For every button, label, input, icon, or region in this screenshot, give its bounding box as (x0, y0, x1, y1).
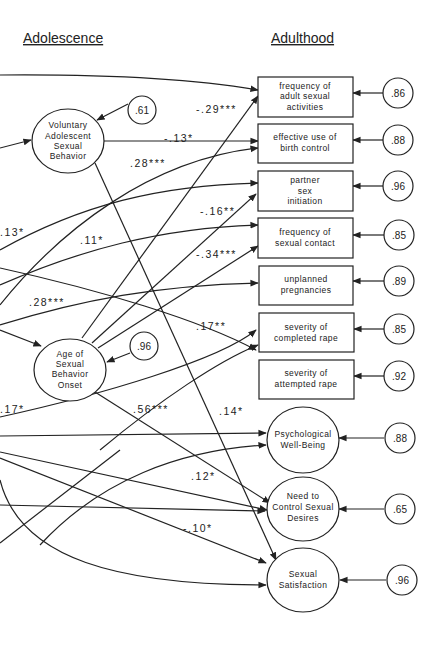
svg-text:Voluntary: Voluntary (48, 120, 87, 130)
svg-text:partner: partner (290, 175, 320, 185)
svg-text:sexual contact: sexual contact (275, 238, 335, 248)
svg-text:Desires: Desires (287, 513, 319, 523)
path-diagram: Adolescence Adulthood (0, 0, 437, 661)
edge-external-attempted-rape (0, 268, 256, 350)
error-control-desires: .65 (385, 494, 415, 524)
svg-text:Sexual: Sexual (54, 141, 82, 151)
outcome-birth-control: effective use of birth control (258, 124, 353, 163)
coef-age-control-desires: .56*** (133, 403, 169, 415)
coef-age-freq-contact: -.34*** (196, 248, 237, 260)
outcome-freq-adult: frequency of adult sexual activities (258, 77, 353, 117)
svg-text:.88: .88 (391, 135, 405, 146)
outcome-satisfaction: Sexual Satisfaction (267, 548, 339, 612)
svg-text:.86: .86 (391, 88, 405, 99)
svg-text:effective use of: effective use of (273, 132, 337, 142)
edge-external-control-1 (0, 452, 267, 510)
svg-text:pregnancies: pregnancies (281, 285, 332, 295)
edge-external-age-onset (0, 330, 41, 346)
edge-vasb-satisfaction (95, 163, 276, 560)
heading-adolescence: Adolescence (23, 30, 103, 46)
svg-text:Sexual: Sexual (289, 569, 317, 579)
svg-text:.92: .92 (392, 371, 406, 382)
svg-text:.85: .85 (392, 230, 406, 241)
node-age-onset: Age of Sexual Behavior Onset (34, 339, 106, 401)
edge-error-age-onset (107, 353, 130, 362)
outcome-unplanned: unplanned pregnancies (259, 266, 353, 305)
svg-text:Well-Being: Well-Being (281, 440, 326, 450)
coef-external-satisfaction: -.10* (183, 522, 213, 534)
svg-text:unplanned: unplanned (284, 274, 327, 284)
error-psych-wellbeing: .88 (385, 423, 415, 453)
edge-error-vasb (97, 104, 128, 120)
svg-text:Behavior: Behavior (50, 151, 87, 161)
outcome-control-desires: Need to Control Sexual Desires (267, 477, 339, 541)
svg-text:.96: .96 (391, 181, 405, 192)
svg-text:.96: .96 (137, 341, 151, 352)
edge-external-satisfaction-2 (0, 480, 266, 585)
svg-text:completed rape: completed rape (274, 333, 338, 343)
outcome-completed-rape: severity of completed rape (259, 313, 354, 352)
edge-external-line (0, 450, 120, 543)
coef-external-freq-contact: .11* (80, 234, 104, 246)
coef-external-control-desires: .12* (191, 470, 216, 482)
svg-text:activities: activities (287, 102, 324, 112)
coef-external-attempted-rape: .17** (196, 320, 226, 332)
edge-age-freq-contact (98, 246, 258, 348)
outcome-attempted-rape: severity of attempted rape (259, 360, 354, 399)
outcome-partner-init: partner sex initiation (258, 171, 353, 211)
error-attempted-rape: .92 (384, 361, 414, 391)
error-satisfaction: .96 (387, 565, 417, 595)
svg-text:adult sexual: adult sexual (280, 91, 330, 101)
coef-external-unplanned: .28*** (29, 296, 65, 308)
coef-age-partner: -.16** (200, 205, 235, 217)
coef-age-freq-adult: -.29*** (196, 103, 237, 115)
error-freq-contact: .85 (384, 220, 414, 250)
error-freq-adult: .86 (383, 78, 413, 108)
svg-text:sex: sex (298, 186, 313, 196)
svg-text:Age of: Age of (57, 349, 84, 359)
svg-text:.65: .65 (393, 504, 407, 515)
svg-text:frequency of: frequency of (279, 81, 331, 91)
coef-external-birth-control: .28*** (130, 157, 166, 169)
edge-external-vasb (0, 140, 31, 148)
svg-text:Sexual: Sexual (56, 359, 84, 369)
svg-text:.89: .89 (392, 276, 406, 287)
svg-text:severity of: severity of (284, 368, 327, 378)
svg-text:initiation: initiation (287, 196, 322, 206)
svg-text:.96: .96 (395, 575, 409, 586)
coef-vasb-satisfaction: .14* (219, 405, 244, 417)
svg-text:.88: .88 (393, 433, 407, 444)
coefficients: -.29*** -.13* .28*** -.16** -.34*** .13*… (0, 103, 244, 534)
coef-vasb-birth-control: -.13* (164, 132, 194, 144)
error-partner-init: .96 (383, 171, 413, 201)
edge-external-freq-adult (0, 75, 258, 90)
svg-text:Psychological: Psychological (274, 429, 331, 439)
edge-external-psych-1 (0, 433, 266, 436)
error-age-onset: .96 (130, 332, 158, 360)
coef-external-partner: .13* (0, 226, 25, 238)
svg-text:attempted rape: attempted rape (275, 379, 338, 389)
edge-external-birth-control (0, 148, 258, 305)
svg-text:Onset: Onset (58, 380, 83, 390)
svg-text:frequency of: frequency of (279, 227, 331, 237)
edge-age-control-desires (95, 392, 270, 503)
outcome-psych-wellbeing: Psychological Well-Being (267, 407, 339, 473)
outcome-freq-contact: frequency of sexual contact (258, 218, 353, 258)
error-vasb: .61 (128, 96, 156, 124)
error-unplanned: .89 (384, 266, 414, 296)
error-completed-rape: .85 (384, 314, 414, 344)
svg-text:birth control: birth control (280, 143, 330, 153)
svg-text:Control Sexual: Control Sexual (272, 502, 333, 512)
svg-text:Need to: Need to (287, 491, 320, 501)
svg-text:severity of: severity of (284, 322, 327, 332)
svg-text:Satisfaction: Satisfaction (279, 580, 328, 590)
svg-text:Behavior: Behavior (52, 369, 89, 379)
edge-external-psych-2 (40, 445, 266, 545)
node-vasb: Voluntary Adolescent Sexual Behavior (32, 109, 104, 173)
svg-text:Adolescent: Adolescent (45, 131, 91, 141)
heading-adulthood: Adulthood (271, 30, 334, 46)
error-birth-control: .88 (383, 125, 413, 155)
coef-external-completed-rape: .17* (0, 403, 25, 415)
svg-text:.61: .61 (135, 105, 149, 116)
svg-text:.85: .85 (392, 324, 406, 335)
